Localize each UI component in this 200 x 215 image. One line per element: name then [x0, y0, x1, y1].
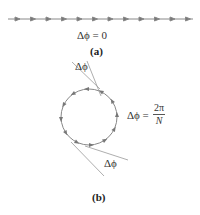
circular-arrow-chain — [59, 87, 119, 147]
bottom-tangent-lines — [71, 142, 128, 176]
panel-a-equation: Δϕ = 0 — [77, 30, 107, 41]
straight-arrow-chain — [8, 17, 193, 21]
panel-b-equation-fraction: 2π N — [153, 103, 165, 126]
bottom-angle-label: Δϕ — [104, 158, 117, 169]
panel-a-caption: (a) — [90, 46, 103, 57]
fraction-numerator: 2π — [153, 103, 165, 115]
panel-b-caption: (b) — [92, 192, 105, 203]
fraction-denominator: N — [156, 115, 163, 126]
top-angle-label: Δϕ — [75, 61, 88, 72]
panel-b-equation-lhs: Δϕ = — [127, 110, 149, 121]
